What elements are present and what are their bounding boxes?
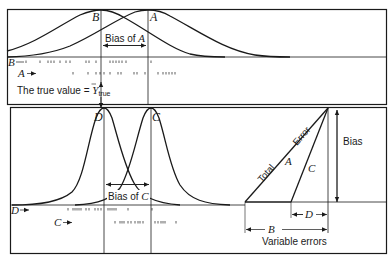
b-dimension-label: B — [268, 223, 275, 235]
curve-label-b: B — [92, 10, 100, 24]
curve-label-a: A — [149, 10, 158, 24]
line-label-a: A — [284, 155, 292, 167]
observations-c — [115, 221, 176, 224]
bias-a-label: Bias of A — [105, 32, 145, 44]
bottom-panel: D C Bias of C D C — [10, 108, 387, 254]
error-line-c — [291, 108, 328, 202]
line-label-c: C — [308, 162, 316, 174]
top-panel: B A Bias of A B A The true value = Ytrue — [7, 9, 387, 108]
bias-c-label: Bias of C — [108, 190, 149, 202]
variable-errors-label: Variable errors — [262, 236, 327, 247]
bottom-panel-frame — [11, 108, 387, 254]
row-label-d: D — [10, 204, 19, 216]
row-label-c: C — [54, 216, 62, 228]
bias-label: Bias — [343, 136, 362, 147]
row-label-a: A — [17, 67, 25, 79]
row-label-b: B — [8, 56, 15, 68]
total-label: Total — [255, 162, 276, 184]
error-label: Error — [290, 124, 312, 147]
true-value-label: The true value = Ytrue — [17, 84, 111, 97]
distribution-curve-a — [7, 10, 290, 57]
observations-d — [68, 208, 152, 211]
curve-label-d: D — [93, 110, 103, 124]
curve-label-c: C — [152, 110, 161, 124]
bias-diagram: B A Bias of A B A The true value = Ytrue — [0, 0, 392, 260]
observations-b — [26, 61, 151, 64]
error-triangle: Total Error A C Bias D B Variable errors — [245, 108, 362, 247]
d-dimension-label: D — [304, 208, 313, 220]
observations-a — [73, 72, 175, 75]
